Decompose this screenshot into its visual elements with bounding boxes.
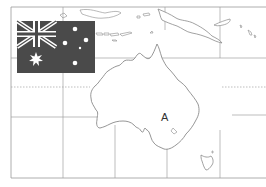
union-jack-canton (17, 21, 56, 47)
region-label-a: A (161, 112, 168, 123)
star-icon (84, 38, 89, 43)
star-icon (73, 61, 78, 66)
island-outline (214, 19, 230, 26)
australia-map (0, 0, 266, 187)
tasmania-outline (201, 155, 213, 170)
star-icon (79, 47, 81, 49)
star-icon (63, 41, 68, 46)
australia-mainland-outline (91, 44, 199, 149)
star-icon (73, 27, 78, 32)
australian-flag (17, 21, 95, 73)
new-guinea-outline (158, 9, 222, 43)
